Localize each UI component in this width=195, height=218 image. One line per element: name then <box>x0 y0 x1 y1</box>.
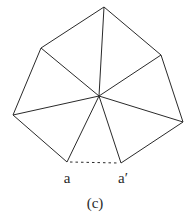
boundary-edge <box>121 122 183 163</box>
vertex-label-a-prime: a′ <box>118 170 128 186</box>
spoke-edge <box>67 96 99 162</box>
vertex-label-a: a <box>64 170 71 186</box>
spoke-edge <box>99 96 183 122</box>
spoke-edge <box>13 96 99 115</box>
boundary-edge <box>13 48 41 115</box>
polygon-edges <box>13 7 183 163</box>
boundary-edge <box>13 115 67 162</box>
spoke-edge <box>99 7 104 96</box>
spoke-edge <box>41 48 99 96</box>
spoke-edge <box>99 96 121 163</box>
boundary-edge <box>104 7 161 55</box>
figure-caption: (c) <box>87 195 104 212</box>
spoke-edge <box>99 55 161 96</box>
boundary-edge <box>161 55 183 122</box>
boundary-edge <box>41 7 104 48</box>
dashed-gap-edge <box>70 162 118 163</box>
unfolded-polygon-diagram: a a′ (c) <box>0 0 195 218</box>
